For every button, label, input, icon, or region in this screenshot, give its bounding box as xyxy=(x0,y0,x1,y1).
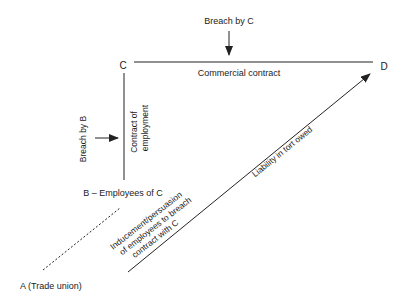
breach-by-c-label: Breach by C xyxy=(204,16,254,26)
breach-by-b-label: Breach by B xyxy=(78,116,88,163)
diagram-svg: Breach by C C D Commercial contract Cont… xyxy=(0,0,406,304)
liability-arrow xyxy=(128,74,370,272)
contract-of-employment-label-2: employment xyxy=(140,104,150,151)
contract-of-employment-label-1: Contract of xyxy=(129,111,139,153)
node-d: D xyxy=(380,61,387,72)
tort-inducement-diagram: Breach by C C D Commercial contract Cont… xyxy=(0,0,406,304)
node-a: A (Trade union) xyxy=(20,281,82,291)
node-b: B – Employees of C xyxy=(83,188,163,198)
inducement-label-group: Inducement/persuasion of employees to br… xyxy=(108,187,199,268)
inducement-dashed-line xyxy=(43,208,120,270)
inducement-label-2: of employees to breach xyxy=(117,195,193,257)
node-c: C xyxy=(119,60,126,71)
commercial-contract-label: Commercial contract xyxy=(198,68,281,78)
liability-label: Liability in tort owed xyxy=(250,124,315,179)
